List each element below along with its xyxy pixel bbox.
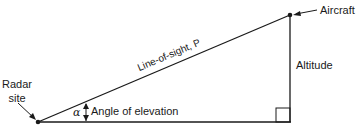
radar-site-dot [36, 120, 41, 125]
angle-arrowhead-down [83, 115, 89, 121]
radar-site-label-line2: site [1, 92, 33, 104]
aircraft-label: Aircraft [320, 4, 355, 16]
right-angle-marker [276, 108, 290, 122]
angle-of-elevation-label: Angle of elevation [91, 105, 178, 117]
aircraft-pointer-arrowhead [293, 11, 301, 16]
radar-site-label: Radar site [1, 78, 33, 104]
radar-site-label-line1: Radar [1, 78, 33, 90]
alpha-symbol: α [73, 107, 80, 119]
aircraft-dot [288, 13, 293, 18]
altitude-label: Altitude [296, 59, 333, 71]
angle-arrowhead-up [83, 103, 89, 109]
